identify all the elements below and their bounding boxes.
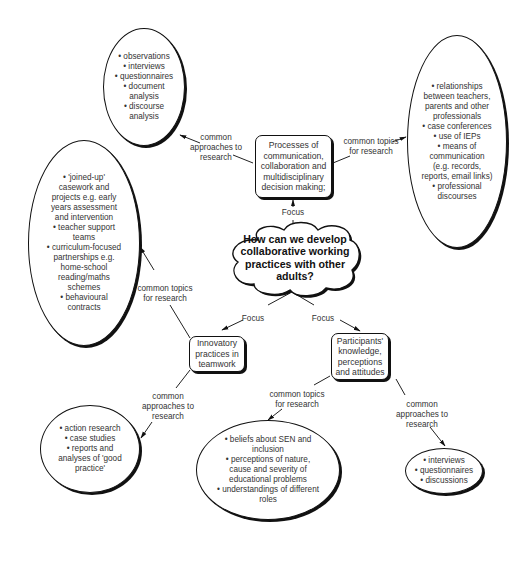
ellipse-line: • beliefs about SEN and [225,435,312,445]
ellipse-line: educational problems [229,475,307,485]
ellipse-line: parents and other [425,102,489,112]
ellipse-line: schemes [68,283,101,293]
focus-box-innovatory: Innovatory practices in teamwork [189,336,245,372]
ellipse-line: • perceptions of nature, [226,455,310,465]
label-line: Focus [276,208,310,218]
ellipse-line: • behavioural [60,293,107,303]
ellipse-line: • curriculum-focused [47,243,121,253]
ellipse-line: • 'joined-up' [63,173,105,183]
ellipse-line: (e.g. records, [433,162,481,172]
box-line: teamwork [198,359,235,370]
ellipse-line: roles [259,495,277,505]
label-line: Focus [306,314,340,324]
ellipse-line: • teacher support [53,223,115,233]
ellipse-processes-topics: • relationships between teachers, parent… [407,35,507,248]
box-line: Innovatory [197,338,237,349]
ellipse-innovatory-approaches: • action research • case studies • repor… [40,405,140,493]
ellipse-line: • observations [118,52,170,62]
box-line: collaboration and [261,161,326,172]
label-line: common [392,400,452,410]
box-line: Participants' [337,336,384,347]
label-line: common topics [336,137,406,147]
label-focus-participants: Focus [306,314,340,324]
label-line: common [138,392,198,402]
label-line: research [138,412,198,422]
ellipse-line: • interviews [423,456,465,466]
ellipse-line: reading/maths [58,273,110,283]
ellipse-line: practice' [75,464,105,474]
label-line: approaches to [392,410,452,420]
ellipse-line: communication [429,152,484,162]
focus-box-processes: Processes of communication, collaboratio… [255,135,332,198]
ellipse-line: analyses of 'good [58,454,121,464]
ellipse-line: home-school [61,263,108,273]
box-line: knowledge, [338,346,381,357]
label-line: research [392,420,452,430]
box-line: decision making; [261,182,325,193]
ellipse-line: • relationships [431,82,482,92]
focus-box-participants: Participants' knowledge, perceptions and… [331,333,389,380]
label-line: Focus [236,314,270,324]
ellipse-line: • means of [438,142,477,152]
label-topics-processes: common topics for research [336,137,406,157]
label-line: common topics [130,284,200,294]
ellipse-line: partnerships e.g. [54,253,115,263]
ellipse-line: casework and [59,183,110,193]
ellipse-line: contracts [67,303,100,313]
ellipse-line: • use of IEPs [433,132,480,142]
label-line: for research [130,294,200,304]
ellipse-line: between teachers, [424,92,491,102]
ellipse-line: • reports and [67,444,114,454]
box-line: Processes of [269,140,319,151]
ellipse-processes-approaches: • observations • interviews • questionna… [103,28,185,146]
label-line: common [186,133,246,143]
label-topics-participants: common topics for research [262,390,332,410]
ellipse-line: reports, email links) [422,172,493,182]
box-line: multidisciplinary [263,172,324,183]
label-line: research [186,153,246,163]
central-line: adults? [240,270,350,282]
box-line: perceptions [338,357,382,368]
ellipse-line: years assessment [51,203,117,213]
ellipse-line: projects e.g. early [52,193,117,203]
ellipse-line: • action research [59,424,120,434]
ellipse-innovatory-topics: • 'joined-up' casework and projects e.g.… [28,140,140,346]
box-line: and attitudes [335,367,384,378]
ellipse-line: analysis [129,112,159,122]
label-line: approaches to [138,402,198,412]
label-line: for research [336,147,406,157]
ellipse-line: teams [73,233,95,243]
box-line: practices in [195,349,238,360]
ellipse-line: • discourse [124,102,164,112]
ellipse-line: inclusion [252,445,284,455]
label-focus-innovatory: Focus [236,314,270,324]
ellipse-line: • understandings of different [217,485,319,495]
ellipse-line: • questionnaires [415,466,473,476]
label-line: approaches to [186,143,246,153]
label-line: for research [262,400,332,410]
central-line: collaborative working [240,245,350,257]
central-line: How can we develop [240,233,350,245]
label-focus-processes: Focus [276,208,310,218]
ellipse-line: professionals [433,112,481,122]
ellipse-line: • questionnaires [115,72,173,82]
central-line: practices with other [240,258,350,270]
ellipse-line: • case conferences [422,122,491,132]
ellipse-line: • case studies [65,434,116,444]
ellipse-participants-approaches: • interviews • questionnaires • discussi… [405,448,483,494]
ellipse-line: • document [123,82,164,92]
ellipse-line: cause and severity of [229,465,306,475]
label-approaches-participants: common approaches to research [392,400,452,430]
ellipse-line: analysis [129,92,159,102]
ellipse-line: discourses [437,192,476,202]
label-approaches-innovatory: common approaches to research [138,392,198,422]
box-line: communication, [263,151,323,162]
ellipse-participants-topics: • beliefs about SEN and inclusion • perc… [196,420,340,520]
ellipse-line: • professional [432,182,481,192]
ellipse-line: • interviews [123,62,165,72]
label-topics-innovatory: common topics for research [130,284,200,304]
ellipse-line: and intervention [55,213,113,223]
ellipse-line: • discussions [420,476,467,486]
central-question: How can we develop collaborative working… [240,233,350,283]
label-approaches-processes: common approaches to research [186,133,246,163]
